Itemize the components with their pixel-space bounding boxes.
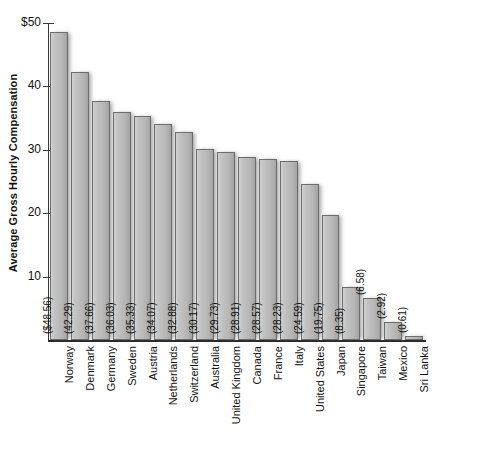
bar-value-label: (35.33) bbox=[125, 302, 136, 334]
bar-value-label: (29.73) bbox=[209, 302, 220, 334]
y-tick-label: $50 bbox=[21, 15, 41, 30]
x-axis-label-text: Denmark bbox=[84, 346, 96, 391]
bar-value-label: (28.91) bbox=[230, 302, 241, 334]
bar-slot: (0.61) bbox=[405, 18, 423, 340]
bar-value-label: (8.35) bbox=[334, 308, 345, 334]
bar-slot: (34.07) bbox=[154, 18, 172, 340]
bar-slot: (6.58) bbox=[363, 18, 381, 340]
x-axis-label-text: Singapore bbox=[355, 346, 367, 396]
x-axis-label-text: Norway bbox=[63, 346, 75, 383]
bar-value-label: (30.17) bbox=[188, 302, 199, 334]
bar-slot: (19.75) bbox=[322, 18, 340, 340]
y-tick-label: 20 bbox=[28, 205, 41, 220]
bar-value-label: (28.57) bbox=[251, 302, 262, 334]
bar-series: ($48.56)(42.29)(37.66)(36.03)(35.33)(34.… bbox=[50, 18, 426, 340]
y-axis-title: Average Gross Hourly Compensation bbox=[2, 0, 24, 345]
bar-slot: (37.66) bbox=[92, 18, 110, 340]
y-tick-label: 40 bbox=[28, 78, 41, 93]
x-axis-label-text: Taiwan bbox=[376, 346, 388, 380]
bar-slot: (35.33) bbox=[134, 18, 152, 340]
bar-value-label: (32.88) bbox=[167, 302, 178, 334]
bar-value-label: (2.92) bbox=[376, 292, 387, 318]
bar-value-label: (24.59) bbox=[293, 302, 304, 334]
bar-value-label: (6.58) bbox=[355, 269, 366, 295]
bar-slot: (2.92) bbox=[384, 18, 402, 340]
x-axis-label-text: United States bbox=[314, 346, 326, 412]
x-axis-label-text: Mexico bbox=[397, 346, 409, 381]
y-axis-title-text: Average Gross Hourly Compensation bbox=[7, 73, 19, 272]
y-axis-line bbox=[48, 23, 49, 341]
x-axis-label-text: United Kingdom bbox=[230, 346, 242, 424]
bar-slot: (28.23) bbox=[280, 18, 298, 340]
bar[interactable]: (8.35) bbox=[342, 287, 360, 340]
x-axis-label-text: Sweden bbox=[126, 346, 138, 386]
bar-value-label: ($48.56) bbox=[42, 297, 53, 334]
bar-value-label: (0.61) bbox=[397, 307, 408, 333]
bar-slot: (36.03) bbox=[113, 18, 131, 340]
bar-slot: (28.57) bbox=[259, 18, 277, 340]
x-axis-label-text: Sri Lanka bbox=[418, 346, 430, 392]
bar-slot: (30.17) bbox=[196, 18, 214, 340]
bar-value-label: (34.07) bbox=[146, 302, 157, 334]
y-tick-label: 10 bbox=[28, 269, 41, 284]
bar-slot: (32.88) bbox=[175, 18, 193, 340]
bar-value-label: (28.23) bbox=[272, 302, 283, 334]
x-axis-label-text: Australia bbox=[209, 346, 221, 389]
bar-value-label: (37.66) bbox=[84, 302, 95, 334]
x-axis-label-text: Japan bbox=[335, 346, 347, 376]
x-axis-label-text: Switzerland bbox=[188, 346, 200, 403]
plot-area: 10203040$50 ($48.56)(42.29)(37.66)(36.03… bbox=[48, 18, 426, 341]
bar-value-label: (36.03) bbox=[105, 302, 116, 334]
bar-value-label: (42.29) bbox=[63, 302, 74, 334]
bar[interactable]: (42.29) bbox=[71, 72, 89, 340]
bar-slot: ($48.56) bbox=[50, 18, 68, 340]
x-axis-label-text: Netherlands bbox=[167, 346, 179, 405]
bar-slot: (28.91) bbox=[238, 18, 256, 340]
bar-slot: (24.59) bbox=[301, 18, 319, 340]
bar-slot: (29.73) bbox=[217, 18, 235, 340]
bar[interactable]: (0.61) bbox=[405, 336, 423, 340]
y-tick-label: 30 bbox=[28, 142, 41, 157]
x-axis-label-text: Canada bbox=[251, 346, 263, 385]
bar[interactable]: ($48.56) bbox=[50, 32, 68, 340]
x-axis-line bbox=[48, 340, 426, 342]
x-axis-labels: NorwayDenmarkGermanySwedenAustriaNetherl… bbox=[50, 346, 426, 458]
x-axis-label-text: Austria bbox=[147, 346, 159, 380]
x-axis-label-text: France bbox=[272, 346, 284, 380]
bar-value-label: (19.75) bbox=[313, 302, 324, 334]
bar-slot: (42.29) bbox=[71, 18, 89, 340]
x-axis-label-text: Italy bbox=[293, 346, 305, 366]
bar-chart: Average Gross Hourly Compensation 102030… bbox=[0, 0, 480, 461]
x-axis-label-text: Germany bbox=[105, 346, 117, 391]
